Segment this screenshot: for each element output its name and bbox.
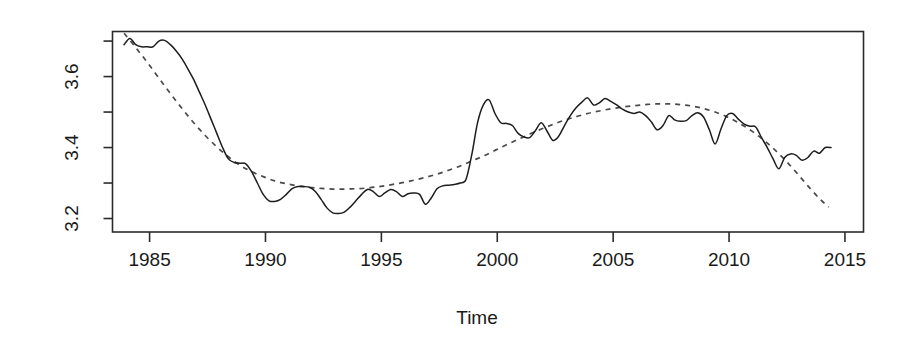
time-series-chart: 3.23.43.6 1985199019952000200520102015 T…	[0, 0, 917, 351]
y-axis-tick-labels: 3.23.43.6	[61, 63, 82, 231]
x-tick-label-1985: 1985	[128, 249, 170, 270]
y-tick-label-3_2: 3.2	[61, 205, 82, 231]
y-axis-ticks	[104, 41, 113, 218]
x-axis-tick-labels: 1985199019952000200520102015	[128, 249, 866, 270]
trend-line-series	[124, 33, 829, 207]
observed-line-series	[124, 39, 831, 214]
x-tick-label-2015: 2015	[824, 249, 866, 270]
y-tick-label-3_4: 3.4	[61, 134, 82, 161]
x-tick-label-1990: 1990	[244, 249, 286, 270]
y-tick-label-3_6: 3.6	[61, 63, 82, 89]
x-axis-ticks	[150, 232, 845, 242]
x-tick-label-1995: 1995	[360, 249, 402, 270]
x-tick-label-2005: 2005	[592, 249, 634, 270]
x-tick-label-2000: 2000	[476, 249, 518, 270]
plot-frame	[113, 32, 864, 233]
x-axis-title: Time	[456, 307, 498, 328]
figure-canvas: 3.23.43.6 1985199019952000200520102015 T…	[0, 0, 917, 351]
x-tick-label-2010: 2010	[708, 249, 750, 270]
